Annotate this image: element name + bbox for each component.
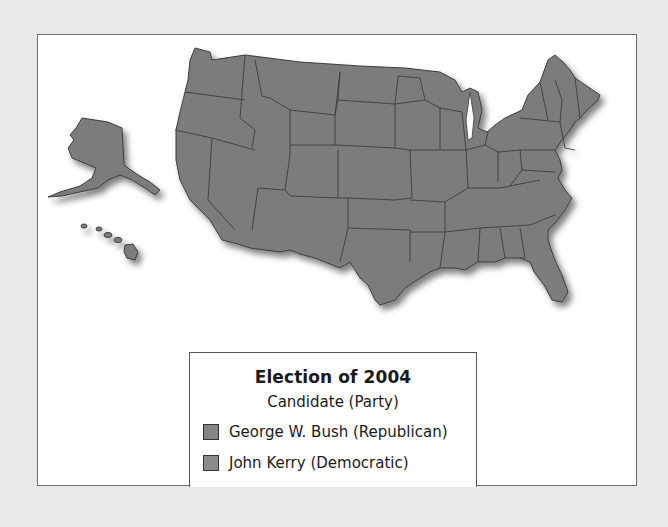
contiguous-us <box>176 48 600 305</box>
legend-subtitle: Candidate (Party) <box>190 393 476 411</box>
alaska <box>48 118 160 197</box>
map-legend: Election of 2004 Candidate (Party) Georg… <box>189 352 477 487</box>
legend-label-bush: George W. Bush (Republican) <box>229 423 448 441</box>
hawaii <box>81 224 138 260</box>
swatch-democratic <box>203 455 219 471</box>
legend-title: Election of 2004 <box>190 367 476 387</box>
swatch-republican <box>203 424 219 440</box>
legend-label-kerry: John Kerry (Democratic) <box>229 454 409 472</box>
legend-item-kerry: John Kerry (Democratic) <box>203 454 409 472</box>
legend-item-bush: George W. Bush (Republican) <box>203 423 448 441</box>
